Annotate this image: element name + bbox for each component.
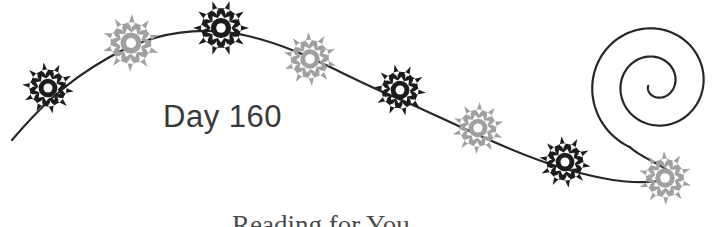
page-title: Day 160 (163, 101, 282, 132)
flower-icon (453, 102, 503, 154)
flower-center (126, 38, 136, 48)
flower-center (561, 158, 570, 167)
decorative-divider-canvas: Day 160 Reading for You (0, 0, 728, 227)
flower-center (473, 123, 482, 132)
flower-center (44, 84, 53, 93)
flower-icon (103, 14, 159, 72)
flower-center (216, 23, 226, 33)
flower-icon (22, 62, 74, 113)
flower-cluster (22, 1, 691, 205)
spiral-stroke (592, 28, 703, 147)
flower-icon (284, 32, 336, 86)
spiral-flourish-icon (592, 28, 703, 180)
flower-icon (539, 136, 590, 188)
flower-center (305, 54, 315, 64)
flower-center (660, 173, 670, 183)
floral-vine-artwork (0, 0, 728, 227)
flower-icon (193, 1, 249, 54)
clipped-caption-text: Reading for You (232, 212, 532, 227)
flower-center (396, 86, 405, 95)
